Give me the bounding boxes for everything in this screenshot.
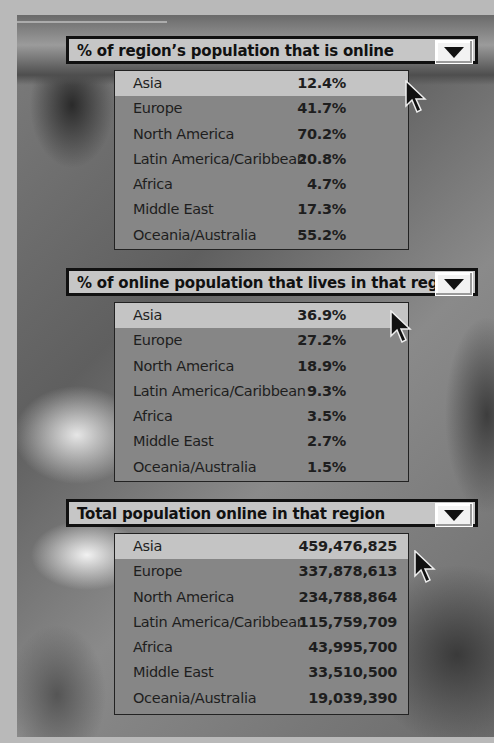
list-item[interactable]: Africa4.7% [115, 172, 408, 197]
region-value: 9.3% [307, 383, 346, 399]
region-name: Europe [133, 100, 182, 116]
dropdown-header[interactable]: % of online population that lives in tha… [66, 268, 478, 296]
dropdown-toggle-button[interactable] [435, 503, 473, 527]
dropdown-title: % of online population that lives in tha… [77, 274, 464, 292]
dropdown-panel-total-online: Total population online in that region A… [66, 499, 486, 719]
region-value: 337,878,613 [298, 563, 397, 579]
region-name: Africa [133, 408, 173, 424]
dropdown-list: Asia36.9% Europe27.2% North America18.9%… [114, 302, 409, 482]
region-value: 18.9% [297, 358, 346, 374]
region-value: 55.2% [297, 227, 346, 243]
region-name: Latin America/Caribbean [133, 614, 306, 630]
region-name: Middle East [133, 433, 214, 449]
region-value: 33,510,500 [308, 664, 397, 680]
region-name: Asia [133, 538, 162, 554]
region-value: 3.5% [307, 408, 346, 424]
region-value: 459,476,825 [298, 538, 397, 554]
region-name: Oceania/Australia [133, 227, 256, 243]
list-item[interactable]: Europe41.7% [115, 96, 408, 121]
region-value: 70.2% [297, 126, 346, 142]
region-value: 115,759,709 [298, 614, 397, 630]
mouse-pointer-icon [405, 80, 427, 114]
triangle-down-icon [444, 47, 464, 58]
list-item[interactable]: Oceania/Australia55.2% [115, 223, 408, 248]
region-name: Africa [133, 639, 173, 655]
list-item[interactable]: Latin America/Caribbean20.8% [115, 147, 408, 172]
list-item[interactable]: North America70.2% [115, 122, 408, 147]
list-item[interactable]: Middle East2.7% [115, 429, 408, 454]
list-item[interactable]: Asia459,476,825 [115, 534, 408, 559]
region-value: 43,995,700 [308, 639, 397, 655]
region-value: 12.4% [297, 75, 346, 91]
list-item[interactable]: Oceania/Australia1.5% [115, 455, 408, 480]
region-value: 36.9% [297, 307, 346, 323]
mouse-pointer-icon [414, 550, 436, 584]
region-value: 1.5% [307, 459, 346, 475]
region-value: 17.3% [297, 201, 346, 217]
list-item[interactable]: Africa43,995,700 [115, 635, 408, 660]
list-item[interactable]: North America234,788,864 [115, 585, 408, 610]
region-name: North America [133, 589, 234, 605]
region-name: Oceania/Australia [133, 459, 256, 475]
list-item[interactable]: Oceania/Australia19,039,390 [115, 686, 408, 711]
region-value: 27.2% [297, 332, 346, 348]
dropdown-toggle-button[interactable] [435, 272, 473, 296]
region-value: 41.7% [297, 100, 346, 116]
region-name: Europe [133, 332, 182, 348]
list-item[interactable]: Africa3.5% [115, 404, 408, 429]
dropdown-panel-share-of-online: % of online population that lives in tha… [66, 268, 486, 483]
region-value: 2.7% [307, 433, 346, 449]
region-name: Europe [133, 563, 182, 579]
triangle-down-icon [444, 279, 464, 290]
list-item[interactable]: Latin America/Caribbean115,759,709 [115, 610, 408, 635]
region-name: Asia [133, 307, 162, 323]
dropdown-title: Total population online in that region [77, 505, 385, 523]
region-name: Asia [133, 75, 162, 91]
mouse-pointer-icon [390, 310, 412, 344]
dropdown-header[interactable]: % of region’s population that is online [66, 36, 478, 64]
list-item[interactable]: Europe337,878,613 [115, 559, 408, 584]
dropdown-toggle-button[interactable] [435, 40, 473, 64]
dropdown-list: Asia459,476,825 Europe337,878,613 North … [114, 533, 409, 715]
region-name: North America [133, 358, 234, 374]
list-item[interactable]: Latin America/Caribbean9.3% [115, 379, 408, 404]
list-item[interactable]: North America18.9% [115, 354, 408, 379]
region-value: 234,788,864 [298, 589, 397, 605]
region-value: 4.7% [307, 176, 346, 192]
region-value: 19,039,390 [308, 690, 397, 706]
region-value: 20.8% [297, 151, 346, 167]
dropdown-title: % of region’s population that is online [77, 42, 394, 60]
region-name: Latin America/Caribbean [133, 383, 306, 399]
list-item[interactable]: Middle East33,510,500 [115, 660, 408, 685]
list-item[interactable]: Asia12.4% [115, 71, 408, 96]
dropdown-list: Asia12.4% Europe41.7% North America70.2%… [114, 70, 409, 250]
list-item[interactable]: Middle East17.3% [115, 197, 408, 222]
region-name: Africa [133, 176, 173, 192]
triangle-down-icon [444, 510, 464, 521]
ceiling-light [17, 21, 167, 23]
list-item[interactable]: Asia36.9% [115, 303, 408, 328]
region-name: North America [133, 126, 234, 142]
list-item[interactable]: Europe27.2% [115, 328, 408, 353]
region-name: Middle East [133, 664, 214, 680]
region-name: Latin America/Caribbean [133, 151, 306, 167]
dropdown-panel-percent-online: % of region’s population that is online … [66, 36, 486, 251]
region-name: Middle East [133, 201, 214, 217]
dropdown-header[interactable]: Total population online in that region [66, 499, 478, 527]
region-name: Oceania/Australia [133, 690, 256, 706]
